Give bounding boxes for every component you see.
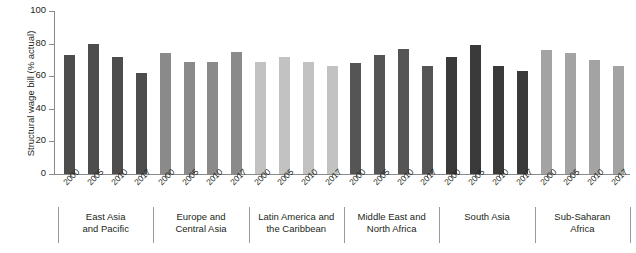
group-separator	[630, 207, 631, 243]
region-label: Middle East andNorth Africa	[344, 211, 439, 253]
bar	[327, 66, 338, 174]
bar	[541, 50, 552, 174]
bar	[160, 53, 171, 174]
y-tick-100	[49, 11, 55, 12]
y-tick-20	[49, 141, 55, 142]
bar	[231, 52, 242, 174]
bar-group	[344, 11, 439, 174]
y-tick-80	[49, 44, 55, 45]
bar-groups	[58, 11, 630, 174]
bar	[112, 57, 123, 174]
plot-area: 020406080100	[58, 11, 630, 174]
bar	[493, 66, 504, 174]
y-tick-0	[49, 174, 55, 175]
region-label-line: South Asia	[442, 211, 531, 223]
bar	[184, 62, 195, 174]
bar	[88, 44, 99, 174]
bar-group	[439, 11, 534, 174]
region-label-line: Sub-Saharan	[538, 211, 627, 223]
region-label-line: Africa	[538, 223, 627, 235]
x-axis-year-labels: 2000200520102017200020052010201720002005…	[58, 178, 630, 208]
y-tick-label-0: 0	[2, 168, 46, 178]
region-label-line: Central Asia	[156, 223, 245, 235]
y-tick-60	[49, 76, 55, 77]
bar	[422, 66, 433, 174]
region-label-line: the Caribbean	[252, 223, 341, 235]
bar	[517, 71, 528, 174]
y-tick-label-40: 40	[2, 103, 46, 113]
region-label-line: Middle East and	[347, 211, 436, 223]
y-tick-40	[49, 109, 55, 110]
bar	[64, 55, 75, 174]
bar	[374, 55, 385, 174]
bar	[350, 63, 361, 174]
bar	[279, 57, 290, 174]
region-label-line: Latin America and	[252, 211, 341, 223]
bar-group	[535, 11, 630, 174]
y-tick-label-60: 60	[2, 70, 46, 80]
region-label-line: Europe and	[156, 211, 245, 223]
y-axis-title: Structural wage bill (% actual)	[25, 4, 36, 184]
bar-group	[58, 11, 153, 174]
bar	[303, 62, 314, 174]
bar	[398, 49, 409, 175]
y-tick-label-80: 80	[2, 38, 46, 48]
region-label-line: and Pacific	[61, 223, 150, 235]
region-label: Sub-SaharanAfrica	[535, 211, 630, 253]
bar	[446, 57, 457, 174]
bar-chart: Structural wage bill (% actual) 02040608…	[0, 0, 636, 253]
bar	[136, 73, 147, 174]
region-label-line: North Africa	[347, 223, 436, 235]
bar-group	[249, 11, 344, 174]
bar-group	[153, 11, 248, 174]
region-label-line: East Asia	[61, 211, 150, 223]
bar	[470, 45, 481, 174]
region-labels: East Asiaand PacificEurope andCentral As…	[58, 211, 630, 253]
bar	[255, 62, 266, 174]
bar	[565, 53, 576, 174]
region-label: East Asiaand Pacific	[58, 211, 153, 253]
bar	[613, 66, 624, 174]
bar	[589, 60, 600, 174]
region-label: Latin America andthe Caribbean	[249, 211, 344, 253]
y-tick-label-100: 100	[2, 5, 46, 15]
bar	[207, 62, 218, 174]
y-axis-line	[54, 11, 55, 175]
region-label: Europe andCentral Asia	[153, 211, 248, 253]
y-tick-label-20: 20	[2, 135, 46, 145]
region-label: South Asia	[439, 211, 534, 253]
